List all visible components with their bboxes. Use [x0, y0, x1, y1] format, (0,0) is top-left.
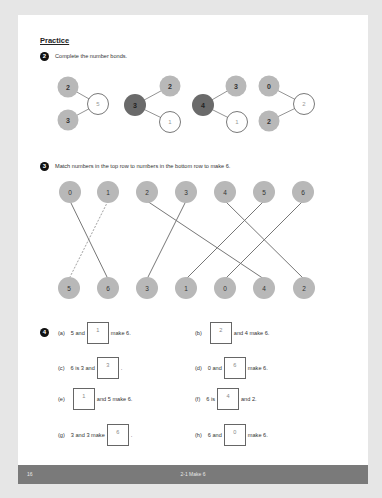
item-text-after: make 6.: [248, 432, 268, 438]
answer-box[interactable]: 2: [210, 322, 232, 344]
top-number: 5: [262, 189, 266, 196]
top-number: 6: [301, 189, 305, 196]
bottom-number: 3: [145, 285, 149, 292]
answer-box[interactable]: 1: [87, 322, 109, 344]
top-number: 2: [145, 189, 149, 196]
item-text-after: .: [121, 365, 123, 371]
bond-4-part-top: 0: [267, 83, 271, 90]
answer-box[interactable]: 6: [107, 424, 129, 446]
bottom-number: 1: [184, 285, 188, 292]
bottom-number: 5: [67, 285, 71, 292]
item-e: (e) 1 and 5 make 6.: [58, 388, 132, 410]
question-4-number: 4: [40, 328, 49, 337]
item-text-before: 6 and: [208, 432, 222, 438]
bottom-number: 2: [302, 285, 306, 292]
item-text-after: and 4 make 6.: [234, 330, 269, 336]
match-line-3-3: [147, 201, 186, 279]
item-text-before: 5 and: [71, 330, 85, 336]
item-text-after: make 6.: [248, 365, 268, 371]
bond-4-part-bottom: 2: [267, 118, 271, 125]
item-text-before: 6 is: [206, 396, 215, 402]
match-lines: [69, 201, 304, 279]
item-label: (d): [195, 365, 202, 371]
item-text-before: 6 is 3 and: [71, 365, 95, 371]
answer-box[interactable]: 1: [73, 388, 95, 410]
item-label: (c): [58, 365, 65, 371]
item-label: (f): [195, 396, 200, 402]
bond-3-part-top: 3: [234, 83, 238, 90]
bond-1-part-bottom: 3: [66, 117, 70, 124]
match-line-5-1: [186, 201, 264, 279]
match-line-0-6: [70, 201, 108, 279]
answer-box[interactable]: 4: [217, 388, 239, 410]
answer-box[interactable]: 6: [224, 357, 246, 379]
item-d: (d) 0 and 6 make 6.: [195, 357, 268, 379]
item-b: (b) 2 and 4 make 6.: [195, 322, 269, 344]
item-h: (h) 6 and 0 make 6.: [195, 424, 268, 446]
top-number: 0: [68, 189, 72, 196]
bond-3-whole: 4: [201, 102, 205, 109]
bond-1-part-top: 2: [66, 84, 70, 91]
top-number: 4: [223, 189, 227, 196]
item-a: (a) 5 and 1 make 6.: [58, 322, 131, 344]
item-text-before: 0 and: [208, 365, 222, 371]
page-footer: 16 2-1 Make 6: [18, 465, 368, 484]
answer-box[interactable]: 0: [224, 424, 246, 446]
item-label: (a): [58, 330, 65, 336]
item-text-after: .: [131, 432, 133, 438]
bond-2-whole: 3: [133, 102, 137, 109]
bottom-number: 6: [106, 285, 110, 292]
item-text-after: and 2.: [241, 396, 257, 402]
footer-title: 2-1 Make 6: [18, 471, 368, 477]
answer-box[interactable]: 3: [97, 357, 119, 379]
match-line-2-4: [147, 201, 264, 279]
item-label: (b): [195, 330, 202, 336]
item-f: (f) 6 is 4 and 2.: [195, 388, 257, 410]
item-c: (c) 6 is 3 and 3 .: [58, 357, 122, 379]
top-number: 3: [184, 189, 188, 196]
bond-2-part-top: 2: [168, 83, 172, 90]
top-number: 1: [106, 189, 110, 196]
item-label: (h): [195, 432, 202, 438]
item-text-after: and 5 make 6.: [97, 396, 132, 402]
item-label: (g): [58, 432, 65, 438]
item-label: (e): [58, 396, 65, 402]
bottom-number: 4: [262, 285, 266, 292]
item-g: (g) 3 and 3 make 6 .: [58, 424, 132, 446]
item-text-after: make 6.: [111, 330, 131, 336]
bottom-number: 0: [223, 285, 227, 292]
item-text-before: 3 and 3 make: [71, 432, 105, 438]
